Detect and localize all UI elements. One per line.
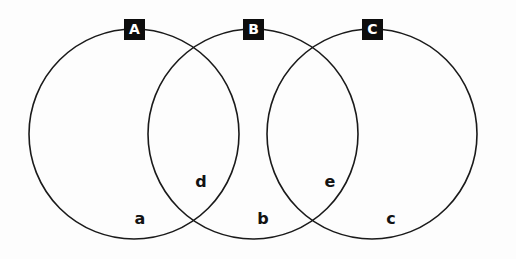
set-circle-b bbox=[148, 29, 358, 239]
set-badge-c: C bbox=[362, 19, 383, 40]
region-label-b: b bbox=[253, 211, 273, 227]
set-badge-a: A bbox=[124, 19, 145, 40]
set-badge-b: B bbox=[243, 19, 264, 40]
set-circle-c bbox=[267, 29, 477, 239]
region-label-d: d bbox=[191, 174, 211, 190]
region-label-c: c bbox=[381, 211, 401, 227]
region-label-e: e bbox=[320, 174, 340, 190]
region-label-a: a bbox=[130, 211, 150, 227]
venn-diagram: A B C a d b e c bbox=[0, 0, 516, 259]
set-circle-a bbox=[29, 29, 239, 239]
